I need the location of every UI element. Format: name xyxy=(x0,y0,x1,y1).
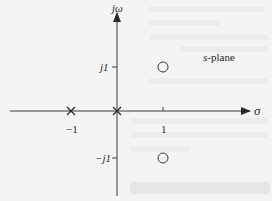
s-plane-diagram xyxy=(0,0,272,201)
imag-tick-label-neg-j1: −j1 xyxy=(95,153,111,164)
real-axis-label: σ xyxy=(254,104,260,117)
real-tick-label-1: 1 xyxy=(161,124,167,135)
zero-marker-1-minus-j1 xyxy=(158,153,168,163)
real-tick-label-neg1: −1 xyxy=(66,124,78,135)
s-plane-label: s-plane xyxy=(203,52,235,63)
imag-tick-label-j1: j1 xyxy=(100,62,109,73)
zero-marker-1-plus-j1 xyxy=(158,62,168,72)
imag-axis-label: jω xyxy=(112,3,123,14)
